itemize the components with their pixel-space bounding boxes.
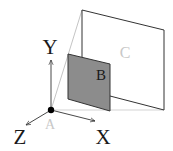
plane-b-label: B bbox=[96, 67, 106, 83]
x-axis-label: X bbox=[95, 125, 110, 149]
plane-c-label: C bbox=[120, 44, 131, 61]
z-axis-label: Z bbox=[14, 125, 27, 149]
origin-label: A bbox=[45, 117, 56, 132]
origin-dot bbox=[48, 107, 54, 113]
x-axis-arrow bbox=[51, 110, 95, 121]
coordinate-diagram: Y X Z A B C bbox=[0, 0, 173, 151]
y-axis-label: Y bbox=[42, 35, 57, 59]
